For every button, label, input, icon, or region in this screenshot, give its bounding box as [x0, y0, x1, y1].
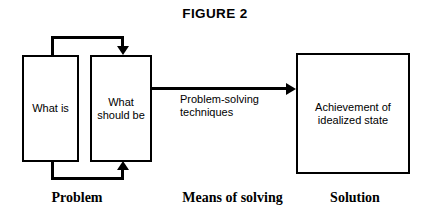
- problem-solving-arrowhead-icon: [286, 83, 296, 95]
- top-feedback-top-segment: [51, 36, 124, 39]
- bottom-feedback-bottom-segment: [51, 177, 124, 180]
- what-should-be-box[interactable]: What should be: [90, 55, 152, 162]
- achievement-box-label: Achievement of idealized state: [313, 101, 393, 126]
- what-is-box[interactable]: What is: [22, 55, 79, 162]
- figure-container: FIGURE 2 Problem-solving techniques What…: [0, 0, 430, 217]
- problem-solving-arrow-label: Problem-solving techniques: [180, 93, 259, 118]
- figure-title: FIGURE 2: [0, 6, 430, 21]
- top-feedback-arrowhead-icon: [117, 46, 129, 55]
- caption-means-of-solving: Means of solving: [160, 190, 305, 206]
- achievement-box[interactable]: Achievement of idealized state: [296, 53, 410, 174]
- problem-solving-arrow-shaft: [152, 87, 288, 90]
- what-should-be-box-label: What should be: [95, 96, 147, 121]
- bottom-feedback-right-segment: [121, 169, 124, 179]
- top-feedback-left-segment: [51, 36, 54, 57]
- caption-problem: Problem: [12, 190, 142, 206]
- caption-solution: Solution: [300, 190, 410, 206]
- what-is-box-label: What is: [30, 102, 71, 115]
- bottom-feedback-arrowhead-icon: [117, 161, 129, 170]
